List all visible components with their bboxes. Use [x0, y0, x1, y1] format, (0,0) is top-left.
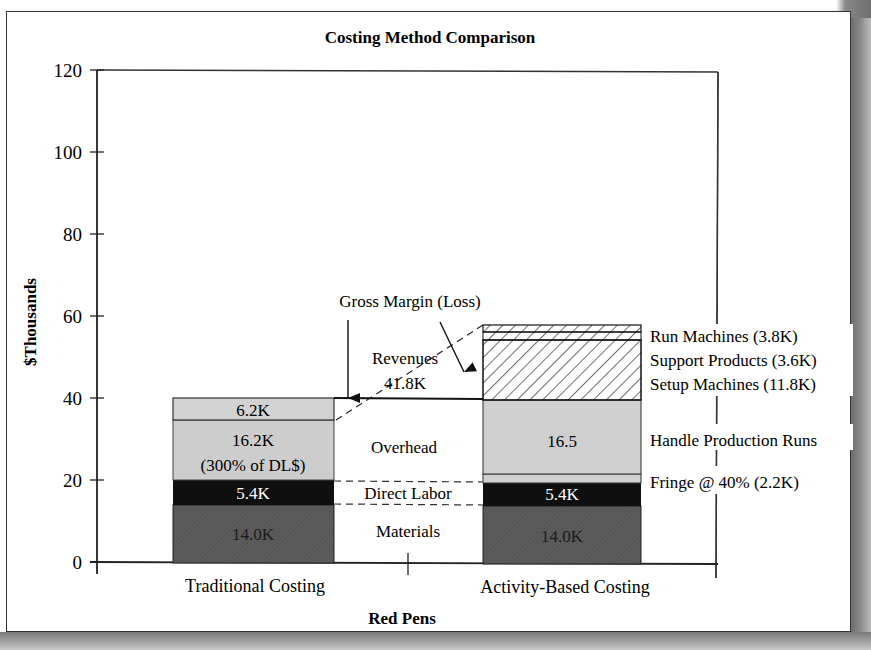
segment-fringe-abc [483, 474, 641, 483]
x-category-activity-based: Activity-Based Costing [480, 577, 650, 597]
revenues-line [334, 398, 483, 399]
label-margin-traditional: 6.2K [236, 401, 270, 420]
y-tick-120: 120 [54, 60, 83, 81]
bar-activity-based: 16.5 5.4K 14.0K [483, 325, 641, 564]
chart-svg: Costing Method Comparison 120 100 80 60 … [0, 0, 871, 650]
label-labor-traditional: 5.4K [236, 484, 270, 503]
labor-bottom-dashed [334, 504, 483, 505]
legend-handle-production-runs: Handle Production Runs [650, 431, 817, 450]
y-axis-label: $Thousands [21, 278, 40, 366]
legend-fringe: Fringe @ 40% (2.2K) [650, 473, 799, 492]
legend-run-machines: Run Machines (3.8K) [650, 327, 798, 346]
margin-connector-dashed [336, 325, 483, 420]
label-materials-abc: 14.0K [541, 527, 584, 546]
materials-label: Materials [376, 522, 440, 541]
overhead-label: Overhead [371, 438, 438, 457]
label-materials-traditional: 14.0K [232, 525, 275, 544]
y-tick-0: 0 [73, 552, 83, 573]
label-labor-abc: 5.4K [545, 485, 579, 504]
bar-traditional: 6.2K 16.2K (300% of DL$) 5.4K 14.0K [173, 398, 334, 563]
x-axis-label: Red Pens [368, 609, 436, 628]
legend-setup-machines: Setup Machines (11.8K) [650, 375, 816, 394]
revenues-label: Revenues [372, 349, 438, 368]
y-tick-100: 100 [54, 142, 83, 163]
direct-labor-label: Direct Labor [364, 484, 452, 503]
labor-top-dashed [334, 481, 483, 482]
revenues-value: 41.8K [384, 374, 427, 393]
y-tick-20: 20 [63, 470, 82, 491]
gross-margin-annotation: Gross Margin (Loss) [339, 292, 480, 311]
legend-support-products: Support Products (3.6K) [650, 351, 817, 370]
y-tick-80: 80 [63, 224, 82, 245]
y-tick-40: 40 [63, 388, 82, 409]
label-overhead-note: (300% of DL$) [201, 456, 306, 475]
segment-run-machines-abc [483, 325, 641, 332]
x-category-traditional: Traditional Costing [185, 576, 325, 596]
label-handle-runs-abc: 16.5 [547, 432, 577, 451]
segment-setup-machines-abc [483, 340, 641, 400]
y-tick-60: 60 [63, 306, 82, 327]
segment-support-products-abc [483, 332, 641, 340]
right-legend: Run Machines (3.8K) Support Products (3.… [648, 72, 853, 578]
chart-title: Costing Method Comparison [325, 28, 536, 47]
arrow-margin-abc [440, 322, 464, 372]
label-overhead-traditional: 16.2K [232, 431, 275, 450]
